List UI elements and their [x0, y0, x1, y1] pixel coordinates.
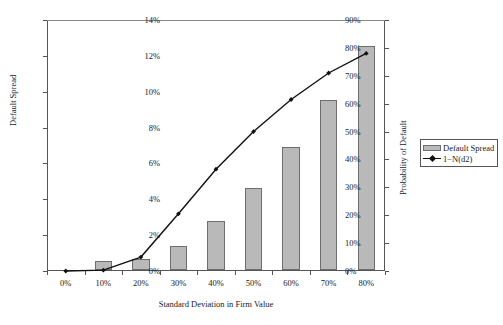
line-diamond-swatch-icon [423, 155, 441, 162]
right-tick-label: 30% [345, 183, 361, 192]
line-marker [63, 269, 68, 274]
left-tick-label: 6% [149, 159, 160, 168]
right-tick-label: 70% [345, 72, 361, 81]
right-tick-label: 0% [345, 267, 356, 276]
right-tick [385, 187, 389, 188]
left-tick-label: 14% [144, 16, 160, 25]
right-tick [385, 215, 389, 216]
x-tick-label: 30% [158, 279, 198, 288]
right-tick-label: 60% [345, 100, 361, 109]
x-tick-label: 0% [46, 279, 86, 288]
right-tick-label: 90% [345, 16, 361, 25]
x-tick-label: 60% [271, 279, 311, 288]
legend-label-1-minus-n-d2: 1−N(d2) [443, 154, 472, 164]
left-tick-label: 2% [149, 231, 160, 240]
right-tick [385, 104, 389, 105]
right-tick-label: 80% [345, 44, 361, 53]
left-tick-label: 8% [149, 124, 160, 133]
line-series-1-minus-n-d2 [47, 20, 385, 271]
x-tick [122, 271, 123, 275]
right-tick [385, 48, 389, 49]
line-marker [101, 268, 106, 273]
right-tick-label: 40% [345, 155, 361, 164]
bar-swatch-icon [423, 145, 441, 151]
right-tick [385, 243, 389, 244]
left-tick-label: 12% [144, 52, 160, 61]
right-axis-title: Probability of Default [398, 120, 408, 195]
left-tick-label: 4% [149, 195, 160, 204]
legend: Default Spread 1−N(d2) [420, 139, 498, 167]
chart-figure: Default Spread Probability of Default St… [0, 0, 503, 325]
x-tick-label: 10% [83, 279, 123, 288]
right-tick-label: 20% [345, 211, 361, 220]
legend-label-default-spread: Default Spread [443, 143, 494, 153]
line-marker [364, 51, 369, 56]
x-tick [385, 271, 386, 275]
plot-area [47, 20, 385, 271]
right-tick-label: 10% [345, 239, 361, 248]
x-tick [235, 271, 236, 275]
x-tick-label: 40% [196, 279, 236, 288]
x-tick-label: 70% [309, 279, 349, 288]
x-tick [47, 271, 48, 275]
right-tick [385, 76, 389, 77]
x-tick-label: 50% [234, 279, 274, 288]
x-tick [272, 271, 273, 275]
right-tick [385, 20, 389, 21]
line-path [66, 53, 366, 271]
x-tick [310, 271, 311, 275]
x-axis-title: Standard Deviation in Firm Value [47, 299, 385, 309]
left-tick-label: 10% [144, 88, 160, 97]
x-tick-label: 80% [346, 279, 386, 288]
right-tick [385, 159, 389, 160]
x-tick-label: 20% [121, 279, 161, 288]
x-tick [197, 271, 198, 275]
left-tick-label: 0% [149, 267, 160, 276]
legend-item-default-spread: Default Spread [423, 142, 494, 153]
legend-item-1-minus-n-d2: 1−N(d2) [423, 153, 494, 164]
right-tick [385, 132, 389, 133]
x-tick [85, 271, 86, 275]
right-tick-label: 50% [345, 128, 361, 137]
line-markers [63, 51, 368, 273]
left-axis-title: Default Spread [8, 75, 18, 126]
